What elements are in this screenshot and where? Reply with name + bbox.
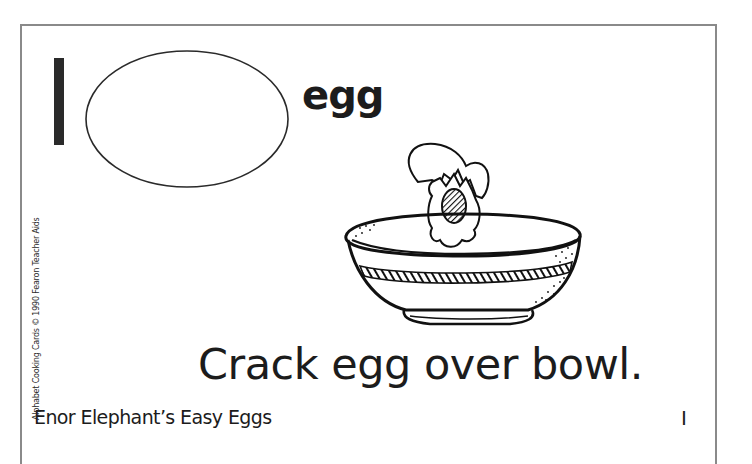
cracked-egg-bowl-icon [340, 140, 585, 330]
vocabulary-word: egg [302, 75, 383, 115]
letter-i-bar [54, 58, 64, 145]
recipe-title: Enor Elephant’s Easy Eggs [34, 408, 272, 427]
egg-outline-icon [84, 49, 290, 189]
instruction-text: Crack egg over bowl. [198, 343, 643, 386]
card-letter: I [681, 408, 687, 428]
copyright-credit: Alphabet Cooking Cards © 1990 Fearon Tea… [33, 217, 41, 420]
